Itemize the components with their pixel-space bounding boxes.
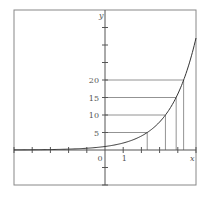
x-tick-label: 1 [122, 154, 127, 163]
y-axis-label: y [98, 11, 104, 20]
y-tick-label: 10 [89, 111, 99, 120]
y-tick-label: 15 [89, 94, 99, 103]
y-tick-label: 20 [89, 76, 99, 85]
chart-plot: y x 510152001 [0, 0, 207, 198]
x-axis-label: x [190, 154, 195, 163]
x-tick-label: 0 [97, 154, 102, 163]
y-tick-label: 5 [94, 129, 99, 138]
